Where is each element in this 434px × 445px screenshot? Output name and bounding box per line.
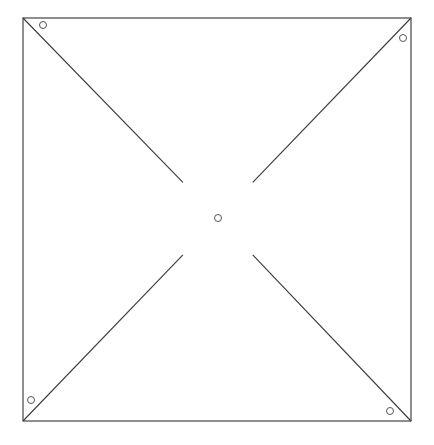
pin-hole-bottom-right [387, 408, 394, 415]
pin-hole-bottom-left [28, 397, 35, 404]
cut-line-bottom-right [253, 255, 411, 421]
pin-hole-top-left [40, 22, 47, 29]
cut-line-top-right [253, 18, 411, 182]
cut-line-top-left [23, 18, 183, 182]
pin-hole-top-right [400, 35, 407, 42]
pin-hole-center [215, 215, 222, 222]
pinwheel-template-diagram [0, 0, 434, 445]
cut-line-bottom-left [23, 255, 183, 421]
